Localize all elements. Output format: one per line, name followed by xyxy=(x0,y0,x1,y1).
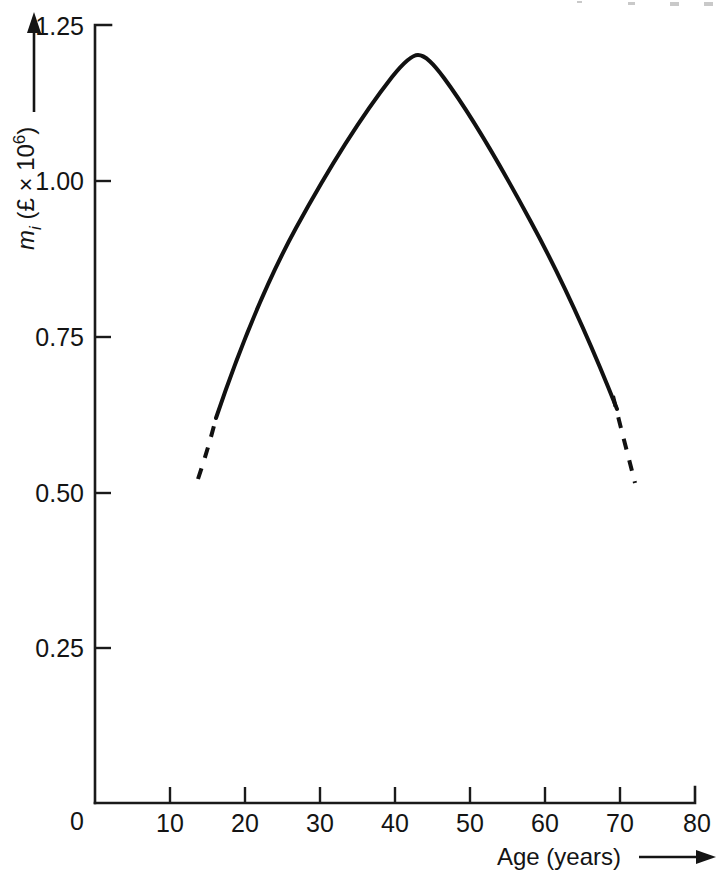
x-tick-label-70: 70 xyxy=(606,809,634,837)
x-tick-label-80: 80 xyxy=(683,809,711,837)
y-axis-title-exponent: 6 xyxy=(10,135,29,144)
x-axis-arrow-head xyxy=(696,850,716,864)
curve-solid-main xyxy=(216,55,617,418)
y-tick-label-125: 1.25 xyxy=(35,12,84,40)
y-axis-title-group: mi (£ × 106) xyxy=(10,12,45,250)
y-axis-line xyxy=(95,25,111,803)
chart-svg: 1.25 1.00 0.75 0.50 0.25 0 10 20 30 40 5… xyxy=(0,0,725,876)
x-tick-label-10: 10 xyxy=(156,809,184,837)
x-axis-ticks xyxy=(170,787,620,803)
scan-artifacts xyxy=(577,1,713,6)
y-tick-label-100: 1.00 xyxy=(35,167,84,195)
x-tick-label-20: 20 xyxy=(231,809,259,837)
chart-figure: 1.25 1.00 0.75 0.50 0.25 0 10 20 30 40 5… xyxy=(0,0,725,876)
y-axis-title-main: m xyxy=(12,230,39,250)
y-axis-title-close: ) xyxy=(12,127,39,135)
x-tick-label-40: 40 xyxy=(381,809,409,837)
x-tick-label-60: 60 xyxy=(531,809,559,837)
y-tick-label-050: 0.50 xyxy=(35,479,84,507)
y-tick-label-025: 0.25 xyxy=(35,634,84,662)
y-axis-ticks xyxy=(95,181,111,648)
x-tick-label-50: 50 xyxy=(456,809,484,837)
x-axis-title-group: Age (years) xyxy=(497,843,716,870)
y-tick-label-0: 0 xyxy=(70,807,84,835)
curve-dashed-left xyxy=(198,418,216,479)
x-tick-label-30: 30 xyxy=(306,809,334,837)
y-axis-title-rest: (£ × 10 xyxy=(12,144,39,226)
y-tick-label-075: 0.75 xyxy=(35,323,84,351)
x-axis-title: Age (years) xyxy=(497,843,621,870)
